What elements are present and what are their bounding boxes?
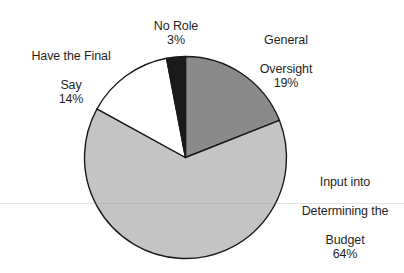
- slice-label-have-the-final-say-line1: Have the Final: [31, 49, 110, 63]
- slice-label-no-role-text: No Role: [154, 19, 198, 33]
- slice-label-no-role-percent: 3%: [128, 33, 224, 48]
- slice-label-no-role: No Role 3%: [128, 4, 224, 62]
- slice-label-have-the-final-say: Have the Final Say 14%: [6, 34, 136, 121]
- slice-label-have-the-final-say-line2: Say: [60, 78, 81, 92]
- slice-label-general-oversight-line2: Oversight: [260, 62, 313, 76]
- slice-label-budget-line2: Determining the: [302, 204, 389, 218]
- slice-label-have-the-final-say-percent: 14%: [6, 92, 136, 107]
- slice-label-budget-line3: Budget: [325, 233, 364, 247]
- slice-label-budget-line1: Input into: [320, 175, 370, 189]
- pie-chart-figure: No Role 3% General Oversight 19% Have th…: [0, 0, 404, 273]
- slice-label-general-oversight-line1: General: [264, 33, 308, 47]
- slice-label-general-oversight: General Oversight 19%: [228, 18, 344, 105]
- slice-label-general-oversight-percent: 19%: [228, 76, 344, 91]
- slice-label-budget-percent: 64%: [286, 247, 404, 262]
- slice-label-input-into-determining-the-budget: Input into Determining the Budget 64%: [286, 160, 404, 273]
